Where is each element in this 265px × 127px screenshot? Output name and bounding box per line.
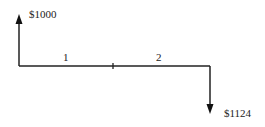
inflow-label: $1000 [29,9,57,20]
period-label-1: 1 [63,52,69,63]
period-label-2: 2 [156,52,162,63]
outflow-arrow-head [207,104,214,114]
inflow-arrow-head [16,14,23,24]
outflow-label: $1124 [224,108,251,119]
